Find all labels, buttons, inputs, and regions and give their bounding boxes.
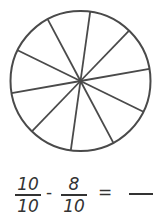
subtraction-equation: 10 10 - 8 10 = <box>0 175 161 220</box>
fraction-2-numerator: 8 <box>61 175 87 194</box>
fraction-1: 10 10 <box>15 175 41 215</box>
minus-sign: - <box>46 182 52 202</box>
fraction-1-denominator: 10 <box>15 196 41 215</box>
answer-blank[interactable] <box>129 193 153 195</box>
fraction-1-numerator: 10 <box>15 175 41 194</box>
fraction-2-denominator: 10 <box>61 196 87 215</box>
fraction-circle <box>0 0 161 160</box>
fraction-2: 8 10 <box>61 175 87 215</box>
equals-sign: = <box>98 182 112 202</box>
